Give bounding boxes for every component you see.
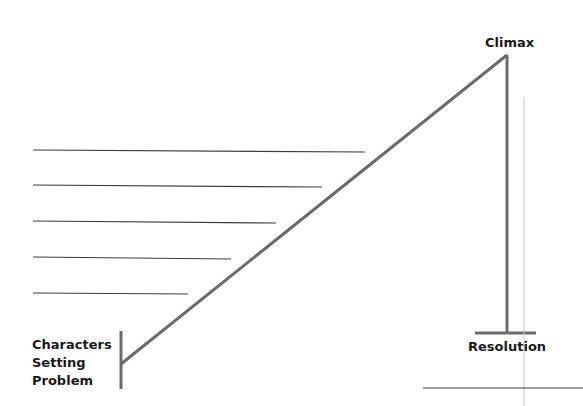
resolution-label: Resolution: [468, 338, 546, 356]
problem-label: Problem: [32, 372, 112, 390]
characters-label: Characters: [32, 336, 112, 354]
exposition-label: Characters Setting Problem: [32, 336, 112, 390]
setting-label: Setting: [32, 354, 112, 372]
writing-line-1: [33, 150, 365, 152]
rising-action-line: [121, 55, 507, 364]
writing-lines: [33, 150, 365, 294]
writing-line-2: [33, 185, 322, 187]
writing-line-5: [33, 293, 188, 294]
writing-line-3: [33, 221, 276, 223]
writing-line-4: [33, 257, 231, 259]
climax-label: Climax: [485, 34, 534, 52]
